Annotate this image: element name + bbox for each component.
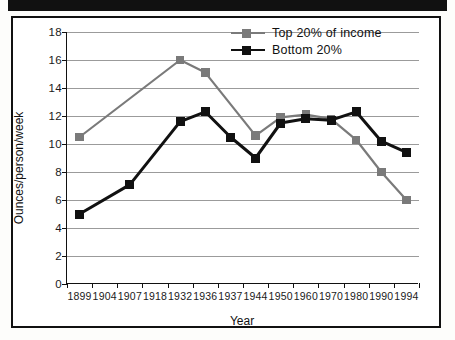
x-tick-label: 1907: [118, 290, 142, 302]
x-tick-label: 1960: [294, 290, 318, 302]
x-tick-label: 1936: [193, 290, 217, 302]
chart-legend: Top 20% of income Bottom 20%: [227, 22, 411, 60]
x-tick-label: 1932: [168, 290, 192, 302]
y-tick-label: 2: [55, 250, 62, 262]
chart-frame: Ounces/person/week 024681012141618 18991…: [11, 16, 441, 328]
series-line: [80, 60, 407, 200]
y-tick-label: 6: [55, 194, 62, 206]
y-tick-label: 4: [55, 222, 62, 234]
x-tick-label: 1990: [369, 290, 393, 302]
x-tick-label: 1970: [319, 290, 343, 302]
legend-swatch-top20: [231, 27, 265, 39]
x-tick-label: 1944: [243, 290, 267, 302]
x-tick-label: 1899: [67, 290, 91, 302]
data-point-marker: [75, 210, 84, 219]
y-tick-label: 12: [49, 110, 62, 122]
x-tick-mark: [419, 283, 420, 288]
x-tick-label: 1904: [93, 290, 117, 302]
x-axis-label: Year: [230, 314, 254, 328]
y-tick-label: 16: [49, 54, 62, 66]
legend-label: Top 20% of income: [272, 26, 382, 40]
x-tick-label: 1980: [344, 290, 368, 302]
data-point-marker: [352, 107, 361, 116]
data-point-marker: [75, 133, 84, 142]
data-point-marker: [125, 180, 134, 189]
x-tick-label: 1937: [218, 290, 242, 302]
y-tick-label: 8: [55, 166, 62, 178]
x-tick-label: 1994: [394, 290, 418, 302]
y-tick-label: 14: [49, 82, 62, 94]
data-point-marker: [226, 133, 235, 142]
legend-swatch-bottom20: [231, 44, 265, 56]
scan-artifact-bar: [8, 0, 447, 11]
y-tick-label: 0: [55, 278, 62, 290]
data-point-marker: [301, 114, 310, 123]
chart-figure-container: Ounces/person/week 024681012141618 18991…: [0, 0, 455, 340]
x-tick-label: 1950: [269, 290, 293, 302]
data-point-marker: [176, 56, 185, 65]
data-point-marker: [201, 68, 210, 77]
data-point-marker: [402, 196, 411, 205]
data-series-layer: [67, 32, 419, 284]
data-point-marker: [377, 168, 386, 177]
data-point-marker: [352, 136, 361, 145]
series-line: [80, 112, 407, 214]
data-point-marker: [251, 131, 259, 140]
data-point-marker: [176, 117, 185, 126]
data-point-marker: [201, 107, 210, 116]
legend-item: Top 20% of income: [231, 24, 407, 41]
y-tick-label: 18: [49, 26, 62, 38]
legend-label: Bottom 20%: [272, 43, 342, 57]
y-tick-label: 10: [49, 138, 62, 150]
data-point-marker: [276, 119, 285, 128]
data-point-marker: [402, 148, 411, 157]
y-axis-label: Ounces/person/week: [12, 112, 26, 225]
x-tick-label: 1918: [143, 290, 167, 302]
legend-item: Bottom 20%: [231, 41, 407, 58]
plot-area: 024681012141618 189919041907191819321936…: [66, 32, 418, 284]
data-point-marker: [377, 137, 386, 146]
data-point-marker: [251, 154, 260, 163]
data-point-marker: [327, 116, 336, 125]
